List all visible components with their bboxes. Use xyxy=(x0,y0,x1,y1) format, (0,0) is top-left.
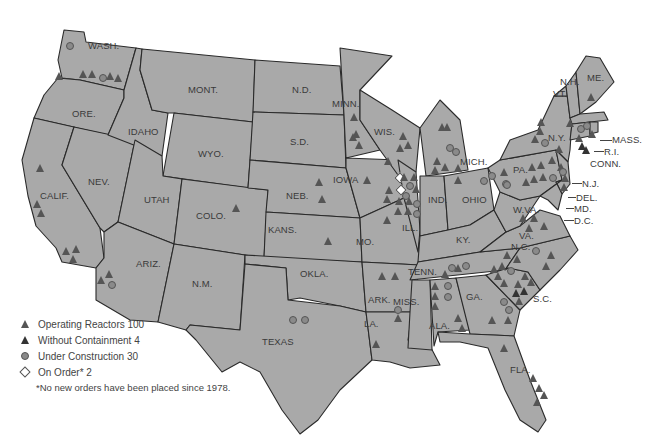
label-nev: NEV. xyxy=(88,176,110,187)
legend-footnote: *No new orders have been placed since 19… xyxy=(36,382,230,393)
circle-icon xyxy=(18,352,32,360)
label-ny: N.Y. xyxy=(548,132,566,143)
marker-operating-reactor xyxy=(404,207,412,215)
marker-operating-reactor xyxy=(525,224,533,232)
marker-operating-reactor xyxy=(540,391,548,399)
state-maine xyxy=(576,56,614,114)
marker-operating-reactor xyxy=(385,186,393,194)
marker-operating-reactor xyxy=(539,173,547,181)
label-ind: IND. xyxy=(428,194,447,205)
label-nm: N.M. xyxy=(192,278,212,289)
marker-operating-reactor xyxy=(566,119,574,127)
label-nj: N.J. xyxy=(582,178,599,189)
label-conn: CONN. xyxy=(590,158,621,169)
diamond-icon xyxy=(18,368,32,376)
marker-operating-reactor xyxy=(441,163,449,171)
legend-item-without-containment: Without Containment 4 xyxy=(18,332,230,348)
marker-under-construction xyxy=(505,306,513,314)
marker-under-construction xyxy=(541,139,549,147)
label-kans: KANS. xyxy=(268,224,297,235)
label-ohio: OHIO xyxy=(462,194,487,205)
label-ill: ILL. xyxy=(402,222,418,233)
marker-operating-reactor xyxy=(395,197,403,205)
marker-under-construction xyxy=(394,306,402,314)
label-idaho: IDAHO xyxy=(128,126,159,137)
label-ri: R.I. xyxy=(604,146,619,157)
marker-operating-reactor xyxy=(97,276,105,284)
marker-under-construction xyxy=(583,122,591,130)
marker-operating-reactor xyxy=(410,173,418,181)
marker-operating-reactor xyxy=(69,255,77,263)
leader-line-ri xyxy=(594,151,604,152)
marker-without-containment xyxy=(512,289,520,297)
marker-operating-reactor xyxy=(350,113,358,121)
marker-under-construction xyxy=(66,42,74,50)
marker-operating-reactor xyxy=(500,168,508,176)
marker-operating-reactor xyxy=(88,70,96,78)
label-mont: MONT. xyxy=(188,84,218,95)
leader-line-dc xyxy=(564,220,574,221)
marker-operating-reactor xyxy=(513,255,521,263)
marker-operating-reactor xyxy=(555,145,563,153)
marker-operating-reactor xyxy=(575,134,583,142)
label-ga: GA. xyxy=(466,291,483,302)
marker-operating-reactor xyxy=(561,174,569,182)
leader-line-mass xyxy=(600,140,612,141)
legend: Operating Reactors 100 Without Containme… xyxy=(18,316,230,393)
label-la: LA. xyxy=(364,318,379,329)
marker-operating-reactor xyxy=(106,72,114,80)
marker-operating-reactor xyxy=(533,398,541,406)
marker-operating-reactor xyxy=(431,302,439,310)
marker-operating-reactor xyxy=(454,176,462,184)
label-texas: TEXAS xyxy=(262,336,294,347)
marker-operating-reactor xyxy=(384,157,392,165)
label-vt: VT. xyxy=(553,88,567,99)
marker-operating-reactor xyxy=(318,195,326,203)
marker-operating-reactor xyxy=(530,214,538,222)
marker-operating-reactor xyxy=(105,270,113,278)
marker-operating-reactor xyxy=(488,316,496,324)
label-me: ME. xyxy=(587,72,604,83)
label-ark: ARK. xyxy=(368,294,391,305)
marker-operating-reactor xyxy=(504,316,512,324)
marker-under-construction xyxy=(444,293,452,301)
label-dc: D.C. xyxy=(574,215,593,226)
marker-operating-reactor xyxy=(443,123,451,131)
marker-operating-reactor xyxy=(560,183,568,191)
marker-under-construction xyxy=(503,181,511,189)
label-utah: UTAH xyxy=(144,194,170,205)
marker-operating-reactor xyxy=(498,262,506,270)
marker-operating-reactor xyxy=(400,173,408,181)
marker-operating-reactor xyxy=(548,156,556,164)
label-ariz: ARIZ. xyxy=(136,258,161,269)
marker-operating-reactor xyxy=(530,175,538,183)
marker-operating-reactor xyxy=(458,324,466,332)
marker-under-construction xyxy=(108,281,116,289)
marker-under-construction xyxy=(532,247,540,255)
marker-operating-reactor xyxy=(324,237,332,245)
marker-operating-reactor xyxy=(527,278,535,286)
leader-line-md xyxy=(566,208,574,209)
state-mississippi xyxy=(408,280,432,350)
label-wyo: WYO. xyxy=(198,148,224,159)
label-md: MD. xyxy=(574,203,592,214)
marker-operating-reactor xyxy=(394,207,402,215)
label-wis: WIS. xyxy=(374,126,395,137)
marker-operating-reactor xyxy=(72,245,80,253)
marker-under-construction xyxy=(301,316,309,324)
marker-operating-reactor xyxy=(519,214,527,222)
legend-label: Operating Reactors 100 xyxy=(38,319,144,330)
marker-operating-reactor xyxy=(114,74,122,82)
marker-operating-reactor xyxy=(537,161,545,169)
legend-item-operating: Operating Reactors 100 xyxy=(18,316,230,332)
leader-line-nj xyxy=(572,183,582,184)
marker-under-construction xyxy=(413,200,421,208)
label-ala: ALA. xyxy=(429,320,450,331)
marker-operating-reactor xyxy=(515,297,523,305)
marker-operating-reactor xyxy=(396,144,404,152)
marker-operating-reactor xyxy=(531,135,539,143)
marker-under-construction xyxy=(500,298,508,306)
marker-operating-reactor xyxy=(431,282,439,290)
marker-operating-reactor xyxy=(355,141,363,149)
legend-label: On Order* 2 xyxy=(38,367,92,378)
